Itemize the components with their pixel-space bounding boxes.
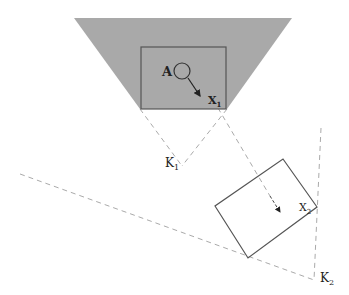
label-k1: K1 — [165, 156, 179, 172]
diagram-canvas: A X1 K1 X2 K2 — [0, 0, 349, 295]
k1-view-line-left — [140, 109, 182, 166]
label-object-a: A — [161, 64, 173, 79]
label-k2: K2 — [320, 271, 334, 287]
diagram-svg: A X1 K1 X2 K2 — [0, 0, 349, 295]
k1-view-line-right — [182, 109, 227, 166]
